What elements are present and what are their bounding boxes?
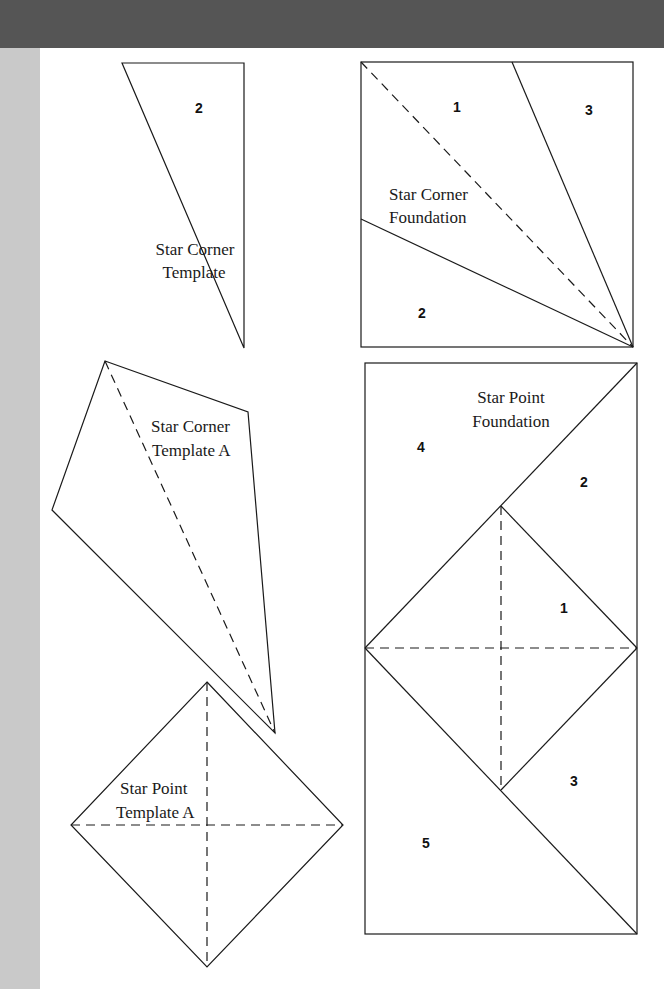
- quilt-pattern-diagram: 2 Star Corner Template 1 2 3 Star Corner…: [0, 0, 664, 989]
- piece-number: 1: [560, 600, 568, 616]
- piece-number: 5: [422, 835, 430, 851]
- piece-number: 3: [570, 773, 578, 789]
- seam-line: [501, 648, 637, 790]
- piece-number: 2: [195, 100, 203, 116]
- star-corner-foundation-label-1: Star Corner: [389, 185, 468, 204]
- star-corner-template-a-label-2: Template A: [152, 441, 231, 460]
- star-corner-template-outline: [122, 63, 244, 348]
- star-corner-template: 2 Star Corner Template: [122, 63, 244, 348]
- star-corner-template-a: Star Corner Template A: [52, 361, 275, 733]
- star-corner-foundation: 1 2 3 Star Corner Foundation: [361, 62, 633, 347]
- star-point-foundation-label-2: Foundation: [472, 412, 550, 431]
- star-corner-template-label-2: Template: [162, 263, 225, 282]
- seam-line: [512, 62, 633, 347]
- star-point-foundation-label-1: Star Point: [477, 388, 545, 407]
- piece-number: 2: [580, 474, 588, 490]
- seam-line: [361, 219, 633, 347]
- piece-number: 3: [585, 102, 593, 118]
- star-point-template-a-label-1: Star Point: [120, 779, 188, 798]
- seam-line: [501, 506, 637, 648]
- star-point-foundation: 1 2 3 4 5 Star Point Foundation: [365, 363, 637, 934]
- piece-number: 1: [453, 99, 461, 115]
- star-point-template-a-label-2: Template A: [116, 803, 195, 822]
- star-corner-template-label-1: Star Corner: [156, 240, 235, 259]
- piece-number: 4: [417, 439, 425, 455]
- star-point-template-a: Star Point Template A: [71, 682, 343, 967]
- star-corner-template-a-label-1: Star Corner: [151, 417, 230, 436]
- piece-number: 2: [418, 305, 426, 321]
- star-corner-foundation-label-2: Foundation: [389, 208, 467, 227]
